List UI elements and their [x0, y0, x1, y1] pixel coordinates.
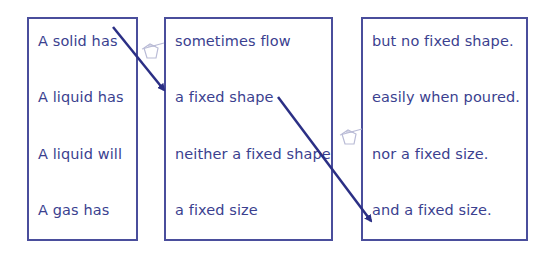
- subject-item[interactable]: A gas has: [38, 202, 109, 218]
- middle-item[interactable]: sometimes flow: [175, 33, 291, 49]
- ending-item[interactable]: but no fixed shape.: [372, 33, 514, 49]
- ending-item[interactable]: and a fixed size.: [372, 202, 492, 218]
- subject-item[interactable]: A liquid has: [38, 89, 124, 105]
- subjects-column: A solid has A liquid has A liquid will A…: [27, 17, 138, 241]
- ending-item[interactable]: easily when poured.: [372, 89, 520, 105]
- pencil-icon: [138, 40, 166, 64]
- ending-item[interactable]: nor a fixed size.: [372, 146, 489, 162]
- middle-item[interactable]: neither a fixed shape: [175, 146, 331, 162]
- middle-item[interactable]: a fixed size: [175, 202, 258, 218]
- middles-column: sometimes flow a fixed shape neither a f…: [164, 17, 333, 241]
- endings-column: but no fixed shape. easily when poured. …: [361, 17, 528, 241]
- subject-item[interactable]: A solid has: [38, 33, 118, 49]
- pencil-icon: [336, 126, 364, 150]
- subject-item[interactable]: A liquid will: [38, 146, 122, 162]
- middle-item[interactable]: a fixed shape: [175, 89, 274, 105]
